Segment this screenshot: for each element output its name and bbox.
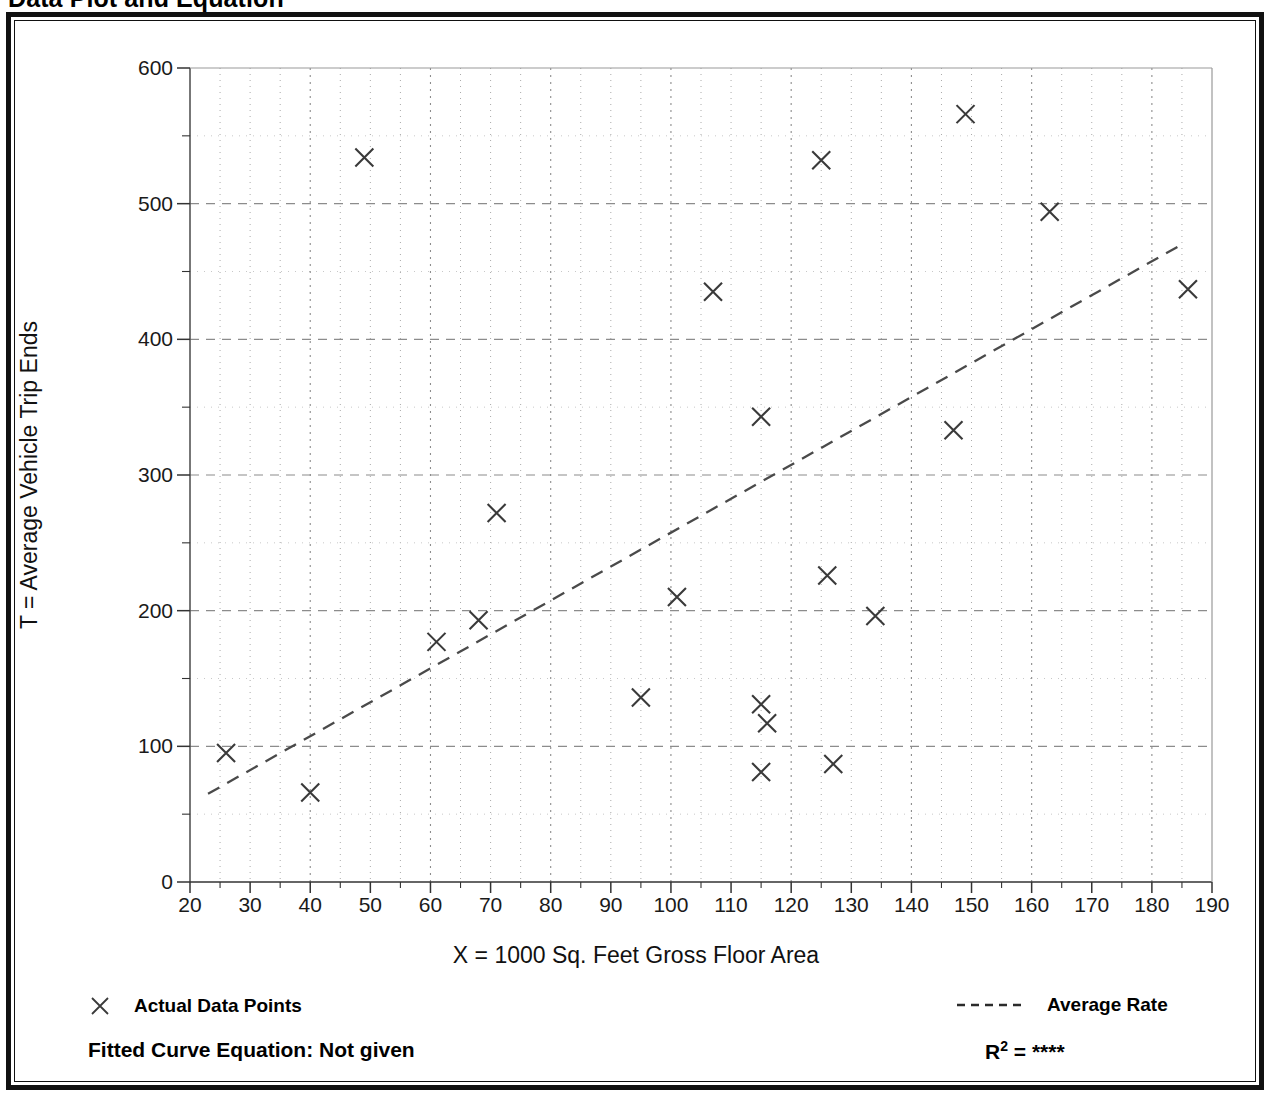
x-tick-label: 30 bbox=[238, 893, 261, 917]
legend-entry-average-rate: Average Rate bbox=[955, 994, 1168, 1016]
legend-label-data-points: Actual Data Points bbox=[134, 995, 302, 1017]
x-tick-label: 160 bbox=[1014, 893, 1049, 917]
y-axis-tick-labels: 0100200300400500600 bbox=[95, 0, 173, 1100]
x-tick-label: 70 bbox=[479, 893, 502, 917]
y-tick-label: 100 bbox=[138, 734, 173, 758]
y-axis-title: T = Average Vehicle Trip Ends bbox=[16, 321, 43, 629]
r-squared-exponent: 2 bbox=[1000, 1038, 1008, 1054]
x-tick-label: 150 bbox=[954, 893, 989, 917]
x-tick-label: 80 bbox=[539, 893, 562, 917]
x-tick-label: 40 bbox=[299, 893, 322, 917]
y-tick-label: 400 bbox=[138, 327, 173, 351]
x-tick-label: 170 bbox=[1074, 893, 1109, 917]
r-squared-value: R2 = **** bbox=[985, 1038, 1065, 1064]
x-axis-tick-labels: 2030405060708090100110120130140150160170… bbox=[0, 893, 1272, 923]
x-tick-label: 60 bbox=[419, 893, 442, 917]
x-tick-label: 50 bbox=[359, 893, 382, 917]
x-axis-title: X = 1000 Sq. Feet Gross Floor Area bbox=[0, 942, 1272, 969]
x-tick-label: 120 bbox=[774, 893, 809, 917]
x-tick-label: 130 bbox=[834, 893, 869, 917]
legend-entry-data-points: Actual Data Points bbox=[88, 994, 302, 1018]
x-marker-icon bbox=[88, 994, 112, 1018]
x-tick-label: 190 bbox=[1194, 893, 1229, 917]
x-tick-label: 90 bbox=[599, 893, 622, 917]
y-tick-label: 300 bbox=[138, 463, 173, 487]
x-tick-label: 100 bbox=[653, 893, 688, 917]
y-tick-label: 500 bbox=[138, 192, 173, 216]
chart-outer-frame bbox=[6, 12, 1264, 1090]
fitted-curve-equation: Fitted Curve Equation: Not given bbox=[88, 1038, 415, 1062]
x-tick-label: 180 bbox=[1134, 893, 1169, 917]
y-tick-label: 600 bbox=[138, 56, 173, 80]
x-tick-label: 20 bbox=[178, 893, 201, 917]
y-tick-label: 0 bbox=[161, 870, 173, 894]
dashed-line-icon bbox=[955, 998, 1029, 1012]
legend-label-average-rate: Average Rate bbox=[1047, 994, 1168, 1016]
r-squared-stars: **** bbox=[1032, 1040, 1065, 1063]
r-squared-symbol: R bbox=[985, 1040, 1000, 1063]
r-squared-equals: = bbox=[1008, 1040, 1032, 1063]
x-tick-label: 140 bbox=[894, 893, 929, 917]
x-tick-label: 110 bbox=[714, 893, 747, 917]
y-tick-label: 200 bbox=[138, 599, 173, 623]
